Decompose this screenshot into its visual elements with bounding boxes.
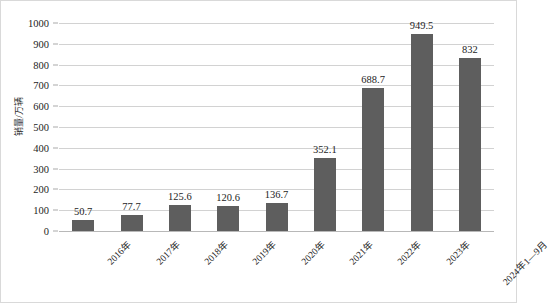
y-axis-tick-label: 600 [33,101,49,112]
bar[interactable] [169,205,191,231]
bar[interactable] [459,58,481,231]
y-axis-tick-label: 900 [33,38,49,49]
bar[interactable] [72,220,94,231]
y-axis-tick-label: 1000 [28,18,49,29]
y-axis-tick-mark [53,168,58,169]
y-axis-tick-mark [53,106,58,107]
bar-value-label: 136.7 [265,189,289,200]
bar[interactable] [121,215,143,231]
x-axis-tick-label: 2024年1—9月 [499,237,550,288]
x-axis-tick-label: 2021年 [345,237,375,267]
bar[interactable] [266,203,288,231]
y-axis-tick-mark [53,23,58,24]
y-axis-tick-label: 500 [33,122,49,133]
bar[interactable] [362,88,384,231]
bar-value-label: 352.1 [313,144,337,155]
y-axis-tick-mark [53,231,58,232]
y-axis-tick-label: 200 [33,184,49,195]
y-axis-tick-mark [53,147,58,148]
y-axis-tick-mark [53,64,58,65]
x-axis-tick-label: 2016年 [104,237,134,267]
x-axis-tick-label: 2019年 [249,237,279,267]
bar-value-label: 832 [462,44,478,55]
y-axis-tick-mark [53,85,58,86]
bar[interactable] [217,206,239,231]
x-axis-tick-label: 2017年 [152,237,182,267]
y-axis-tick-label: 100 [33,205,49,216]
y-axis-tick-mark [53,127,58,128]
bar[interactable] [411,34,433,231]
bar-value-label: 688.7 [361,74,385,85]
y-axis-tick-mark [53,189,58,190]
bar[interactable] [314,158,336,231]
bar-value-label: 50.7 [74,206,92,217]
y-axis-tick-mark [53,210,58,211]
y-axis-tick-labels: 01002003004005006007008009001000 [1,23,59,231]
bar-value-label: 949.5 [410,20,434,31]
x-axis-tick-label: 2018年 [200,237,230,267]
y-axis-tick-label: 300 [33,163,49,174]
y-axis-tick-mark [53,43,58,44]
bar-value-label: 125.6 [168,191,192,202]
x-axis-tick-label: 2023年 [442,237,472,267]
y-axis-tick-label: 800 [33,59,49,70]
x-axis-tick-label: 2022年 [394,237,424,267]
y-axis-tick-label: 400 [33,142,49,153]
bar-value-label: 77.7 [122,201,140,212]
bar-value-label: 120.6 [216,192,240,203]
x-axis-tick-labels: 2016年2017年2018年2019年2020年2021年2022年2023年… [59,231,494,303]
plot-area: 50.777.7125.6120.6136.7352.1688.7949.583… [59,23,494,231]
y-axis-tick-label: 0 [44,226,49,237]
y-axis-tick-label: 700 [33,80,49,91]
x-axis-tick-label: 2020年 [297,237,327,267]
